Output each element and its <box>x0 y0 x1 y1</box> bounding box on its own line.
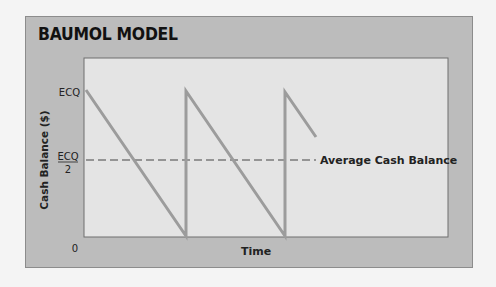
baumol-chart: ECQ ECQ 2 0 Cash Balance ($) Time Averag… <box>0 0 496 287</box>
y-tick-ecq-half-denominator: 2 <box>65 164 71 175</box>
y-tick-ecq-half-numerator: ECQ <box>57 151 78 162</box>
y-tick-ecq: ECQ <box>59 87 80 98</box>
y-tick-zero: 0 <box>72 243 78 254</box>
y-axis-label: Cash Balance ($) <box>38 110 50 209</box>
average-cash-balance-label: Average Cash Balance <box>320 154 457 167</box>
x-axis-label: Time <box>241 245 271 258</box>
